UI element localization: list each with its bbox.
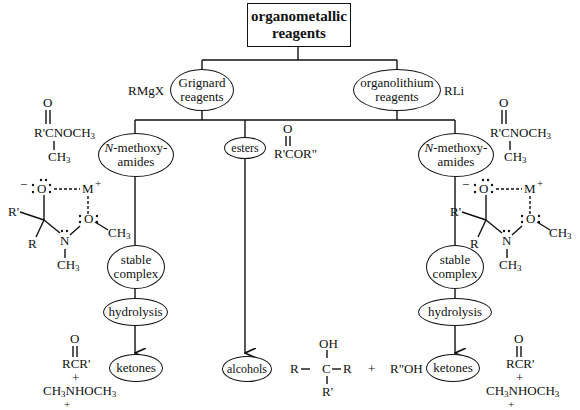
esters-node: esters xyxy=(224,137,266,159)
left-amide-formula: R'CNOCH3 xyxy=(34,126,95,143)
nch3-sub: 3 xyxy=(75,263,80,273)
left-amine: CH3NHOCH3 xyxy=(43,384,116,401)
title-line2: reagents xyxy=(272,25,326,42)
right-ketone-o: O xyxy=(514,332,523,346)
organolithium-line1: organolithium xyxy=(360,76,433,90)
left-plus-charge: + xyxy=(95,176,101,190)
left-hydrolysis-node: hydrolysis xyxy=(103,298,168,326)
hydrolysis-label: hydrolysis xyxy=(108,305,162,319)
alcohol-plus: + xyxy=(368,362,375,376)
grignard-formula: RMgX xyxy=(128,84,164,98)
left-r-prime: R' xyxy=(8,205,19,219)
left-stable-complex-node: stable complex xyxy=(107,245,165,289)
amine-b-sub: 3 xyxy=(112,389,117,399)
alcohol-byproduct: R"OH xyxy=(390,362,423,376)
ch3: CH xyxy=(504,149,522,164)
left-metal: M xyxy=(82,182,94,196)
right-amide-line2: amides xyxy=(438,155,475,169)
ch3-sub: 3 xyxy=(522,155,527,165)
grignard-line1: Grignard xyxy=(179,76,226,90)
right-ketone-formula: RCR' xyxy=(506,357,534,371)
right-n: N xyxy=(502,234,511,248)
amine-b: NHOCH xyxy=(509,383,555,398)
left-plus2: + xyxy=(64,397,70,410)
amide-sub: 3 xyxy=(91,131,96,141)
right-minus-charge: − xyxy=(462,178,469,192)
och3: CH xyxy=(549,225,567,240)
left-ketones-node: ketones xyxy=(109,354,163,382)
left-ketone-o: O xyxy=(70,332,79,346)
alcohols-node: alcohols xyxy=(222,356,272,382)
left-o2: O xyxy=(84,212,93,226)
left-o-anion: O xyxy=(37,182,46,196)
right-amide-line1: N-methoxy- xyxy=(425,141,488,155)
right-amide-ch3: CH3 xyxy=(504,150,527,167)
alcohol-left-r: R xyxy=(290,362,299,376)
n-prefix: N xyxy=(105,140,114,155)
right-metal: M xyxy=(524,182,536,196)
stable-line2: complex xyxy=(114,267,159,281)
och3: CH xyxy=(108,225,126,240)
left-och3: CH3 xyxy=(108,226,131,243)
esters-label: esters xyxy=(231,141,258,155)
alcohol-carbon: C xyxy=(322,362,331,376)
right-plus2: + xyxy=(508,397,514,410)
och3-sub: 3 xyxy=(567,231,572,241)
right-amide-line1-rest: -methoxy- xyxy=(433,140,487,155)
amine-a: CH xyxy=(43,383,61,398)
right-nch3: CH3 xyxy=(499,258,522,275)
right-ketones-node: ketones xyxy=(426,354,480,382)
organolithium-reagents-node: organolithium reagents xyxy=(353,69,441,111)
organometallic-reagents-diagram: organometallic reagents RMgX Grignard re… xyxy=(0,0,580,410)
left-n-methoxy-amides-node: N-methoxy- amides xyxy=(98,133,174,177)
right-o2: O xyxy=(526,212,535,226)
ch3-sub: 3 xyxy=(66,155,71,165)
left-n: N xyxy=(60,234,69,248)
alcohol-oh: OH xyxy=(319,337,338,351)
nch3: CH xyxy=(57,257,75,272)
right-n-methoxy-amides-node: N-methoxy- amides xyxy=(418,133,494,177)
left-amide-line1: N-methoxy- xyxy=(105,141,168,155)
right-amide-formula: R'CNOCH3 xyxy=(490,126,551,143)
amide-main: R'CNOCH xyxy=(34,125,91,140)
alcohol-right-r: R xyxy=(343,362,352,376)
right-o-anion: O xyxy=(479,182,488,196)
amine-b-sub: 3 xyxy=(555,389,560,399)
left-amide-ch3: CH3 xyxy=(48,150,71,167)
right-hydrolysis-node: hydrolysis xyxy=(418,298,492,326)
right-stable-complex-node: stable complex xyxy=(426,245,484,289)
amide-main: R'CNOCH xyxy=(490,125,547,140)
amide-sub: 3 xyxy=(547,131,552,141)
left-amide-line1-rest: -methoxy- xyxy=(113,140,167,155)
nch3: CH xyxy=(499,257,517,272)
hydrolysis-label: hydrolysis xyxy=(428,305,482,319)
title-line1: organometallic xyxy=(251,8,347,25)
right-och3: CH3 xyxy=(549,226,572,243)
stable-line2: complex xyxy=(433,267,478,281)
stable-line1: stable xyxy=(121,253,151,267)
grignard-line2: reagents xyxy=(180,90,223,104)
n-prefix: N xyxy=(425,140,434,155)
alcohol-bottom-r: R' xyxy=(322,385,333,399)
organolithium-formula: RLi xyxy=(444,84,464,98)
connector-lines xyxy=(0,0,580,410)
och3-sub: 3 xyxy=(126,231,131,241)
left-amide-line2: amides xyxy=(118,155,155,169)
organolithium-line2: reagents xyxy=(375,90,418,104)
ester-carbonyl-o: O xyxy=(283,122,292,136)
nch3-sub: 3 xyxy=(517,263,522,273)
right-plus-charge: + xyxy=(537,176,543,190)
ester-formula: R'COR" xyxy=(274,147,317,161)
alcohols-label: alcohols xyxy=(227,362,267,376)
right-amine: CH3NHOCH3 xyxy=(486,384,559,401)
left-ketone-formula: RCR' xyxy=(62,357,90,371)
right-r-prime: R' xyxy=(450,205,461,219)
left-r: R xyxy=(28,237,37,251)
grignard-reagents-node: Grignard reagents xyxy=(170,69,234,111)
stable-line1: stable xyxy=(440,253,470,267)
left-amide-o: O xyxy=(43,96,52,110)
ketones-label: ketones xyxy=(433,361,473,375)
left-nch3: CH3 xyxy=(57,258,80,275)
ch3: CH xyxy=(48,149,66,164)
amine-b: NHOCH xyxy=(66,383,112,398)
